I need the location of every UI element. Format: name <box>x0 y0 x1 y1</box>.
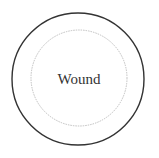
wound-label: Wound <box>58 71 101 87</box>
diagram-svg: Wound <box>0 0 159 158</box>
wound-diagram: Wound <box>0 0 159 158</box>
